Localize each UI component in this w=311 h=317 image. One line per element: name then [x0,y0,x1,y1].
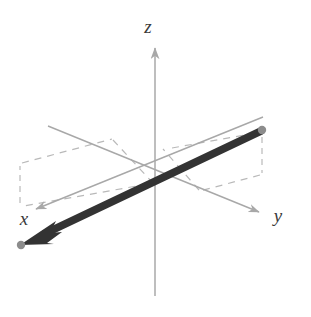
axis-label-x: x [19,208,29,229]
axis-label-z: z [143,16,152,37]
vector-shaft [44,131,261,234]
axis-labels-group: z y x [19,16,283,229]
axes-group [36,48,263,296]
axis-label-y: y [272,205,283,226]
construction-line-left-top [22,139,112,163]
vector-group [17,126,266,249]
construction-line-right-bottom [200,175,260,191]
vector-tip-dot [17,241,25,249]
axis-line-y [48,126,259,212]
axis-line-x [36,117,263,209]
vector-tail-dot [258,126,266,134]
diagram-canvas: z y x [0,0,311,317]
vector-diagram-figure: z y x [0,0,311,317]
